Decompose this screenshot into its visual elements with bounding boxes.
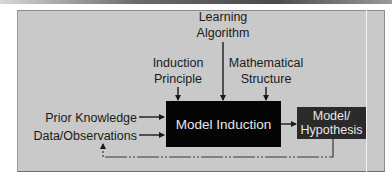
feedback-loop-arrow: [103, 139, 333, 157]
arrow-layer: [0, 0, 392, 182]
